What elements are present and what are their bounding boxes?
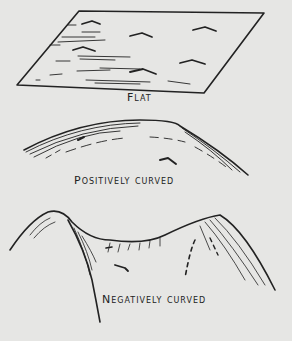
positive-surface bbox=[24, 120, 248, 175]
flat-surface bbox=[17, 11, 264, 93]
negatively-curved-label: Negatively curved bbox=[102, 293, 206, 306]
diagram-canvas bbox=[0, 0, 292, 341]
flat-label: Flat bbox=[127, 91, 152, 104]
positively-curved-label: Positively curved bbox=[74, 174, 174, 187]
